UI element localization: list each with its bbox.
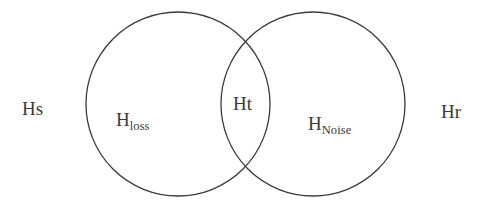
right-set-label-subscript: Noise bbox=[322, 123, 352, 137]
right-set-label-base: H bbox=[308, 113, 322, 134]
outside-right-label: Hr bbox=[441, 102, 461, 121]
left-set-label-subscript: loss bbox=[130, 119, 150, 133]
right-set-label: HNoise bbox=[308, 114, 351, 133]
outside-right-label-text: Hr bbox=[441, 101, 461, 122]
venn-diagram: Hs Hloss Ht HNoise Hr bbox=[0, 0, 486, 215]
outside-left-label: Hs bbox=[22, 99, 43, 118]
left-set-label-base: H bbox=[116, 109, 130, 130]
intersection-label-text: Ht bbox=[233, 93, 252, 114]
outside-left-label-text: Hs bbox=[22, 98, 43, 119]
left-set-label: Hloss bbox=[116, 110, 150, 129]
intersection-label: Ht bbox=[233, 94, 252, 113]
